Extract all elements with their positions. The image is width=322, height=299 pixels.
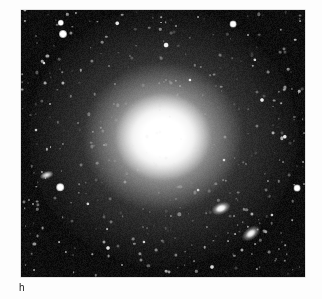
companion-galaxy-layer	[21, 10, 305, 277]
astronomical-image	[21, 10, 305, 277]
figure-page: h	[0, 0, 322, 299]
figure-label: h	[19, 282, 25, 294]
companion-galaxy-upper	[208, 197, 237, 219]
companion-galaxy-lower	[236, 217, 270, 246]
companion-galaxy-left	[37, 168, 57, 181]
